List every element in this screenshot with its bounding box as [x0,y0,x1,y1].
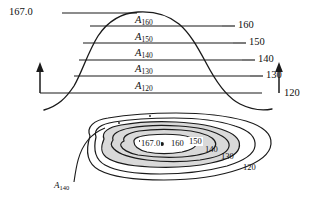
map-callout-a140: A140 [54,181,69,191]
summit-elevation-label: 167.0 [9,7,33,18]
left-arrow-head [36,62,44,72]
map-label-140: 140 [205,145,218,154]
map-label-120: 120 [243,163,256,172]
area-label-a160-subscript: 160 [141,18,152,27]
area-label-a130-subscript: 130 [141,67,152,76]
figure-canvas [0,0,313,204]
map-label-150: 150 [188,137,203,146]
elevation-label-120: 120 [284,88,300,99]
area-label-a120-subscript: 120 [141,84,152,93]
elevation-label-130: 130 [266,70,282,81]
elevation-label-160: 160 [238,20,254,31]
map-label-160: 160 [170,139,185,148]
elevation-label-150: 150 [249,37,265,48]
map-marker-dot-a [118,122,120,124]
elevation-label-140: 140 [258,54,274,65]
map-label-167: 167.0 [140,139,161,148]
area-label-a140: A140 [135,48,153,60]
area-label-a130: A130 [135,64,153,76]
area-label-a150-subscript: 150 [141,35,152,44]
contour-figure: 167.0 A160 A150 A140 A130 A120 160 150 1… [0,0,313,204]
map-marker-dot-b [149,115,151,117]
area-label-a140-subscript: 140 [141,51,152,60]
map-label-130: 130 [221,152,234,161]
map-callout-a140-subscript: 140 [60,184,70,191]
area-label-a120: A120 [135,81,153,93]
area-label-a160: A160 [135,15,153,27]
area-label-a150: A150 [135,32,153,44]
